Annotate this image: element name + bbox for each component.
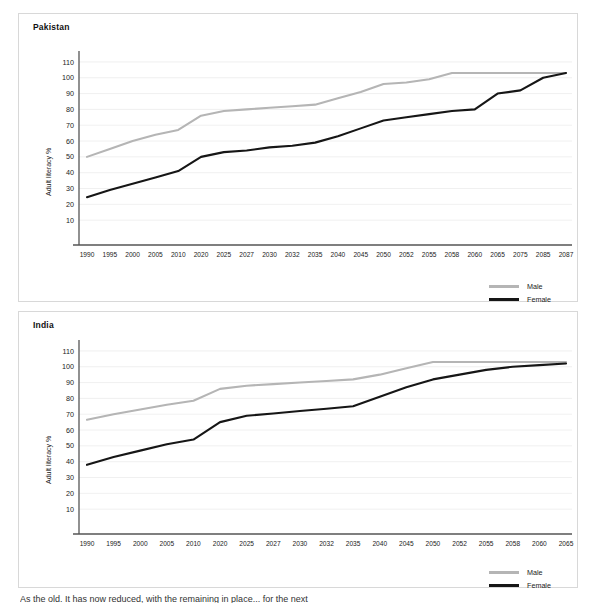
x-axis-tick-label: 2052 — [399, 251, 414, 258]
y-axis-tick-label: 70 — [66, 121, 74, 130]
x-axis-tick-label: 2027 — [266, 540, 281, 547]
x-axis-tick-label: 2000 — [125, 251, 140, 258]
legend-item-female: Female — [489, 579, 563, 592]
footer-text: As the old. It has now reduced, with the… — [20, 594, 580, 603]
plot-area-india: 1020304050607080901001101990199520002005… — [19, 312, 577, 587]
y-axis-tick-label: 80 — [66, 105, 74, 114]
x-axis-tick-label: 2005 — [159, 540, 174, 547]
y-axis-tick-label: 20 — [66, 489, 74, 498]
x-axis-tick-label: 2010 — [186, 540, 201, 547]
x-axis-tick-label: 2065 — [559, 540, 574, 547]
x-axis-tick-label: 2045 — [399, 540, 414, 547]
y-axis-tick-label: 110 — [63, 347, 74, 356]
y-axis-tick-label: 20 — [66, 200, 74, 209]
legend-item-female: Female — [489, 293, 563, 306]
y-axis-tick-label: 90 — [66, 89, 74, 98]
x-axis-tick-label: 2000 — [133, 540, 148, 547]
x-axis-tick-label: 2027 — [239, 251, 254, 258]
y-axis-tick-label: 10 — [66, 505, 74, 514]
x-axis-tick-label: 1995 — [102, 251, 117, 258]
x-axis-tick-label: 2055 — [479, 540, 494, 547]
legend-label-male: Male — [527, 568, 563, 577]
x-axis-tick-label: 2035 — [308, 251, 323, 258]
x-axis-tick-label: 2050 — [426, 540, 441, 547]
x-axis-tick-label: 2032 — [319, 540, 334, 547]
chart-panel-pakistan: Pakistan Adult literacy % 10203040506070… — [18, 13, 578, 302]
legend-swatch-male-icon — [489, 571, 519, 574]
x-axis-tick-label: 2040 — [331, 251, 346, 258]
series-line-male — [87, 73, 566, 157]
legend-india: Male Female — [489, 566, 563, 592]
y-axis-tick-label: 110 — [63, 58, 74, 67]
x-axis-tick-label: 2025 — [239, 540, 254, 547]
y-axis-tick-label: 50 — [66, 441, 74, 450]
x-axis-tick-label: 2055 — [422, 251, 437, 258]
x-axis-tick-label: 2085 — [536, 251, 551, 258]
y-axis-tick-label: 100 — [62, 362, 74, 371]
x-axis-tick-label: 2075 — [513, 251, 528, 258]
charts-page: Pakistan Adult literacy % 10203040506070… — [0, 0, 593, 603]
chart-svg-india: 1020304050607080901001101990199520002005… — [19, 312, 577, 587]
x-axis-tick-label: 2052 — [452, 540, 467, 547]
legend-item-male: Male — [489, 566, 563, 579]
y-axis-tick-label: 40 — [66, 457, 74, 466]
y-axis-tick-label: 10 — [66, 216, 74, 225]
y-axis-tick-label: 30 — [66, 184, 74, 193]
x-axis-tick-label: 2045 — [353, 251, 368, 258]
x-axis-tick-label: 2005 — [148, 251, 163, 258]
x-axis-tick-label: 2060 — [532, 540, 547, 547]
x-axis-tick-label: 2032 — [285, 251, 300, 258]
x-axis-tick-label: 2050 — [376, 251, 391, 258]
series-line-female — [87, 73, 566, 197]
x-axis-tick-label: 2020 — [194, 251, 209, 258]
chart-svg-pakistan: 1020304050607080901001101990199520002005… — [19, 14, 577, 301]
x-axis-tick-label: 2030 — [262, 251, 277, 258]
x-axis-tick-label: 1995 — [106, 540, 121, 547]
x-axis-tick-label: 2087 — [559, 251, 574, 258]
x-axis-tick-label: 1990 — [80, 540, 95, 547]
legend-label-female: Female — [527, 581, 563, 590]
x-axis-tick-label: 2030 — [293, 540, 308, 547]
legend-label-male: Male — [527, 282, 563, 291]
legend-swatch-female-icon — [489, 298, 519, 301]
y-axis-tick-label: 40 — [66, 168, 74, 177]
legend-pakistan: Male Female — [489, 280, 563, 306]
y-axis-tick-label: 60 — [66, 137, 74, 146]
legend-item-male: Male — [489, 280, 563, 293]
y-axis-tick-label: 50 — [66, 152, 74, 161]
y-axis-tick-label: 70 — [66, 410, 74, 419]
x-axis-tick-label: 2058 — [505, 540, 520, 547]
x-axis-tick-label: 2035 — [346, 540, 361, 547]
series-line-male — [87, 362, 566, 420]
x-axis-tick-label: 2058 — [445, 251, 460, 258]
x-axis-tick-label: 2025 — [217, 251, 232, 258]
y-axis-tick-label: 30 — [66, 473, 74, 482]
legend-label-female: Female — [527, 295, 563, 304]
x-axis-tick-label: 1990 — [80, 251, 95, 258]
y-axis-tick-label: 100 — [62, 73, 74, 82]
legend-swatch-female-icon — [489, 584, 519, 587]
plot-area-pakistan: 1020304050607080901001101990199520002005… — [19, 14, 577, 301]
legend-swatch-male-icon — [489, 285, 519, 288]
x-axis-tick-label: 2020 — [213, 540, 228, 547]
x-axis-tick-label: 2065 — [490, 251, 505, 258]
y-axis-tick-label: 60 — [66, 426, 74, 435]
y-axis-tick-label: 90 — [66, 378, 74, 387]
x-axis-tick-label: 2010 — [171, 251, 186, 258]
x-axis-tick-label: 2060 — [467, 251, 482, 258]
y-axis-tick-label: 80 — [66, 394, 74, 403]
x-axis-tick-label: 2040 — [372, 540, 387, 547]
chart-panel-india: India Adult literacy % 10203040506070809… — [18, 311, 578, 588]
